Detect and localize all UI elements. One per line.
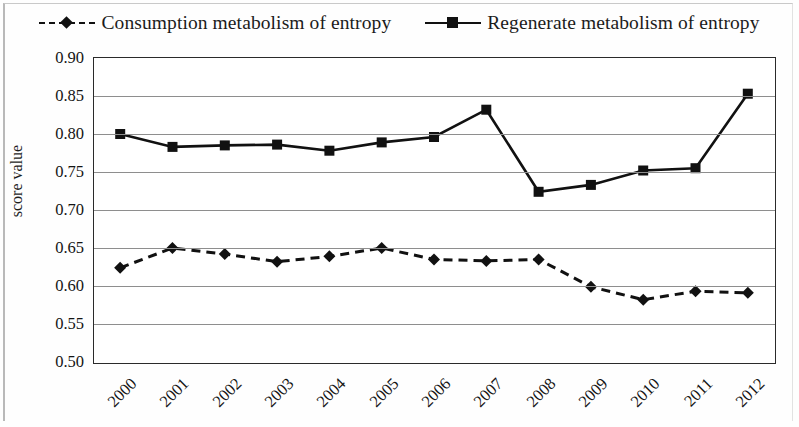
data-point-diamond [323,250,335,262]
data-point-square [220,140,230,150]
x-tick-label: 2002 [195,374,246,425]
data-point-diamond [533,253,545,265]
chart-figure: Consumption metabolism of entropy Regene… [0,0,799,427]
y-tick-label: 0.80 [32,124,84,144]
y-tick-label: 0.85 [32,86,84,106]
data-point-square [638,166,648,176]
gridline [94,96,775,97]
data-point-diamond [271,256,283,268]
data-point-diamond [480,255,492,267]
x-tick-label: 2006 [404,374,455,425]
x-tick-label: 2011 [666,374,717,425]
x-tick-label: 2001 [143,374,194,425]
data-point-diamond [219,248,231,260]
y-tick-label: 0.70 [32,200,84,220]
data-point-diamond [114,262,126,274]
data-point-square [534,187,544,197]
data-point-square [743,89,753,99]
x-tick-label: 2012 [718,374,769,425]
y-tick-label: 0.50 [32,352,84,372]
gridline [94,324,775,325]
data-point-square [586,180,596,190]
x-axis-tick-labels: 2000200120022003200420052006200720082009… [93,366,776,427]
data-point-diamond [690,285,702,297]
gridline [94,134,775,135]
x-tick-label: 2000 [90,374,141,425]
data-point-square [168,142,178,152]
y-tick-label: 0.65 [32,238,84,258]
chart-legend: Consumption metabolism of entropy Regene… [0,6,799,40]
data-point-square [481,105,491,115]
gridline [94,210,775,211]
data-point-square [377,137,387,147]
x-tick-label: 2009 [561,374,612,425]
y-tick-label: 0.75 [32,162,84,182]
plot-area [93,57,776,364]
data-point-diamond [428,253,440,265]
y-axis-title: score value [8,131,26,231]
x-tick-label: 2008 [509,374,560,425]
data-point-square [272,140,282,150]
series-line [120,94,748,192]
y-axis-tick-labels: 0.900.850.800.750.700.650.600.550.50 [28,0,84,427]
gridline [94,172,775,173]
legend-item-consumption: Consumption metabolism of entropy [39,12,391,34]
x-tick-label: 2005 [352,374,403,425]
gridline [94,248,775,249]
legend-key-solid-square-icon [425,15,481,31]
x-tick-label: 2010 [613,374,664,425]
x-tick-label: 2003 [247,374,298,425]
data-point-diamond [742,287,754,299]
y-tick-label: 0.55 [32,314,84,334]
legend-label-regenerate: Regenerate metabolism of entropy [487,12,759,34]
data-point-square [324,146,334,156]
y-tick-label: 0.90 [32,48,84,68]
legend-label-consumption: Consumption metabolism of entropy [101,12,391,34]
data-point-diamond [637,294,649,306]
legend-item-regenerate: Regenerate metabolism of entropy [425,12,759,34]
x-tick-label: 2007 [457,374,508,425]
x-tick-label: 2004 [300,374,351,425]
gridline [94,286,775,287]
y-tick-label: 0.60 [32,276,84,296]
